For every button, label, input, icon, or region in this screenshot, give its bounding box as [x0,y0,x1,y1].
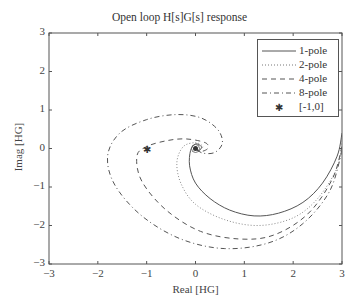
y-tick-label: −3 [18,256,45,268]
x-tick-label: 1 [232,267,256,279]
series-4-pole [137,139,342,239]
x-tick-label: −1 [135,267,159,279]
y-tick-label: 2 [18,64,45,76]
x-tick-label: 2 [281,267,305,279]
y-tick-label: 3 [18,25,45,37]
legend-item-2-pole: 2-pole [258,58,338,72]
asterisk-icon: ✱ [275,103,283,111]
x-tick-label: −3 [37,267,61,279]
x-tick-label: 3 [330,267,354,279]
x-tick-label: −2 [86,267,110,279]
x-axis-label: Real [HG] [49,283,342,295]
legend-item-1-pole: 1-pole [258,44,338,58]
series-8-pole [107,115,342,249]
legend: 1-pole 2-pole 4-pole 8-pole ✱ [-1,0] [257,39,339,117]
y-tick-label: −2 [18,218,45,230]
y-tick-label: 0 [18,141,45,153]
series-2-pole [177,141,342,226]
legend-item-4-pole: 4-pole [258,72,338,86]
nyquist-chart: Open loop H[s]G[s] response ✱ Real [HG] … [0,0,359,307]
x-tick-label: 0 [184,267,208,279]
series-1-pole [189,133,342,216]
origin-point [193,146,198,151]
legend-item-8-pole: 8-pole [258,86,338,100]
legend-item-marker: ✱ [-1,0] [258,100,338,114]
critical-point-marker: ✱ [143,144,151,155]
y-tick-label: 1 [18,102,45,114]
y-tick-label: −1 [18,179,45,191]
